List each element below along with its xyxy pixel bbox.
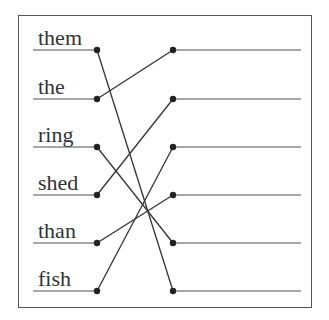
word-the: the [38,76,65,98]
word-than: than [38,220,76,242]
left-dot [94,47,100,53]
left-dot [94,96,100,102]
left-dot [94,240,100,246]
left-dot [94,192,100,198]
connector-line [97,147,173,243]
word-ring: ring [38,124,73,146]
matching-diagram: them the ring shed than fish [0,0,329,320]
connector-line [97,50,173,291]
right-dot [170,192,176,198]
right-dot [170,288,176,294]
connector-line [97,50,173,99]
word-shed: shed [38,172,78,194]
word-them: them [38,27,82,49]
left-dot [94,144,100,150]
right-dot [170,144,176,150]
right-dot [170,96,176,102]
right-dot [170,47,176,53]
left-dot [94,288,100,294]
right-dot [170,240,176,246]
word-fish: fish [38,268,71,290]
connector-line [97,99,173,195]
